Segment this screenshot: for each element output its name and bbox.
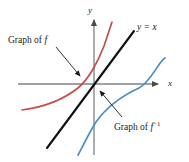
label-graph-of-f-symbol: f xyxy=(44,35,47,45)
label-graph-of-f-inverse-text: Graph of xyxy=(114,122,150,132)
label-graph-of-f: Graph of f xyxy=(8,36,47,46)
annotation-arrow-graph-of-f xyxy=(56,47,80,76)
label-axis-x: x xyxy=(168,79,172,88)
label-line-y-equals-x: y = x xyxy=(137,23,157,33)
graph-figure: Graph of f y = x Graph of f−1 y x xyxy=(0,0,189,162)
label-graph-of-f-inverse: Graph of f−1 xyxy=(114,121,160,133)
graph-canvas xyxy=(0,0,189,162)
label-graph-of-f-inverse-exponent: −1 xyxy=(153,120,160,127)
label-graph-of-f-text: Graph of xyxy=(8,35,44,45)
label-axis-y: y xyxy=(88,6,92,15)
